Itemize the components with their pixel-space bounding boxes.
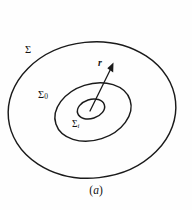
position-vector-arrowhead [107, 63, 113, 73]
figure-canvas [0, 0, 192, 210]
middle-surface-label: Σ0 [38, 90, 48, 101]
inner-surface-label: Σi [72, 120, 79, 130]
figure-caption: (a) [0, 185, 192, 197]
middle-surface-ellipse [47, 73, 138, 150]
figure-container: Σ Σ0 Σi r (a) [0, 0, 192, 210]
inner-surface-label-subscript: i [78, 122, 80, 130]
outer-surface-label: Σ [25, 45, 31, 56]
outer-surface-ellipse [1, 34, 182, 187]
position-vector-label: r [98, 58, 102, 68]
position-vector-shaft [90, 68, 111, 112]
middle-surface-label-subscript: 0 [44, 92, 48, 101]
caption-close-paren: ) [99, 184, 103, 196]
